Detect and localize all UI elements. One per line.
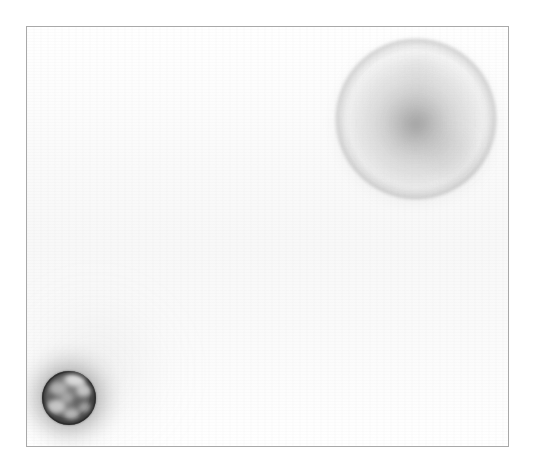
small-spot-ring — [42, 371, 96, 425]
plate-frame — [26, 26, 509, 447]
large-spot-rim — [335, 38, 497, 200]
small-dark-spot — [42, 371, 96, 425]
large-diffuse-spot — [335, 38, 497, 200]
scan-canvas — [0, 0, 535, 470]
